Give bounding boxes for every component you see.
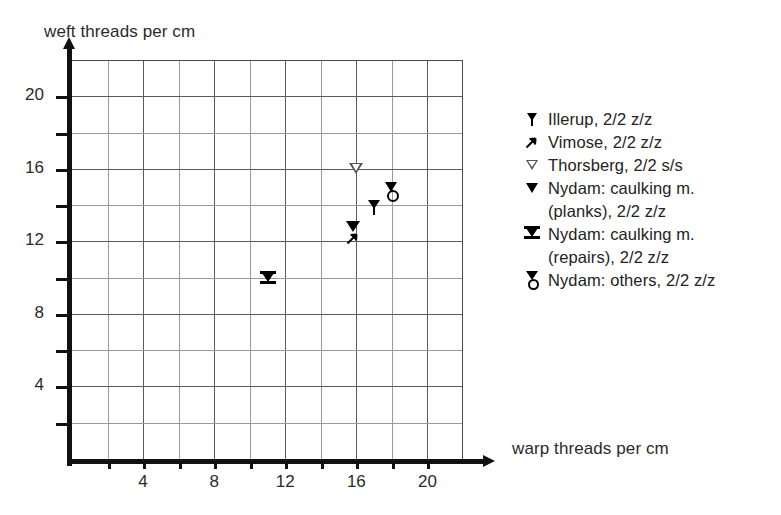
legend-item-label-line2: (repairs), 2/2 z/z (548, 248, 669, 267)
grid-line-vertical (427, 60, 428, 459)
y-tick-label: 8 (10, 303, 44, 323)
x-axis-title: warp threads per cm (512, 439, 669, 459)
legend-item[interactable]: Nydam: caulking m. (516, 177, 778, 200)
legend-item[interactable]: Illerup, 2/2 z/z (516, 108, 778, 131)
grid-line-horizontal (72, 350, 463, 351)
y-axis-tick (56, 423, 72, 426)
x-axis-tick (392, 459, 395, 469)
x-axis-tick (321, 459, 324, 469)
legend-marker-spacer (516, 246, 548, 269)
y-tick-label: 16 (10, 158, 44, 178)
legend-item[interactable]: Thorsberg, 2/2 s/s (516, 154, 778, 177)
grid-line-vertical (250, 60, 251, 459)
legend-item-continuation: (repairs), 2/2 z/z (516, 246, 778, 269)
y-axis-tick (56, 278, 72, 281)
legend-item-continuation: (planks), 2/2 z/z (516, 200, 778, 223)
grid-line-vertical (214, 60, 215, 459)
x-tick-label: 12 (265, 472, 305, 492)
plot-background (72, 60, 463, 459)
grid-line-vertical (356, 60, 357, 459)
x-axis-tick (356, 459, 359, 469)
legend-item-label: Illerup, 2/2 z/z (548, 110, 652, 129)
legend-item[interactable]: Vimose, 2/2 z/z (516, 131, 778, 154)
plot-frame-top (72, 60, 463, 61)
legend-item[interactable]: Nydam: caulking m. (516, 223, 778, 246)
x-axis-tick (108, 459, 111, 469)
legend-item[interactable]: Nydam: others, 2/2 z/z (516, 269, 778, 292)
legend-item-label: Nydam: caulking m. (548, 179, 695, 198)
legend: Illerup, 2/2 z/zVimose, 2/2 z/zThorsberg… (516, 108, 778, 292)
figure-caption (28, 501, 768, 514)
y-axis-tick (56, 96, 72, 99)
grid-line-vertical (143, 60, 144, 459)
x-axis-tick (179, 459, 182, 469)
legend-item-label: Nydam: caulking m. (548, 225, 695, 244)
legend-marker (516, 154, 548, 177)
y-axis-tick (56, 241, 72, 244)
y-axis-tick (56, 205, 72, 208)
y-axis-line (67, 47, 72, 466)
legend-marker (516, 131, 548, 154)
x-axis-tick (214, 459, 217, 469)
scatter-chart-figure: weft threads per cm warp threads per cm … (0, 0, 781, 515)
x-axis-line (67, 459, 487, 464)
plot-area (72, 60, 463, 459)
grid-line-horizontal (72, 133, 463, 134)
grid-line-vertical (179, 60, 180, 459)
y-axis-tick (56, 350, 72, 353)
legend-marker-spacer (516, 200, 548, 223)
x-axis-arrow-icon (483, 455, 495, 467)
x-tick-label: 20 (407, 472, 447, 492)
y-axis-tick (56, 314, 72, 317)
grid-line-horizontal (72, 386, 463, 387)
legend-item-label-line2: (planks), 2/2 z/z (548, 202, 666, 221)
x-tick-label: 8 (194, 472, 234, 492)
grid-line-horizontal (72, 169, 463, 170)
legend-item-label: Vimose, 2/2 z/z (548, 133, 662, 152)
grid-line-vertical (321, 60, 322, 459)
x-tick-label: 4 (123, 472, 163, 492)
y-tick-label: 12 (10, 230, 44, 250)
y-axis-tick (56, 386, 72, 389)
grid-line-horizontal (72, 205, 463, 206)
plot-frame-right (462, 60, 463, 459)
y-axis-tick (56, 133, 72, 136)
grid-line-horizontal (72, 241, 463, 242)
y-axis-tick (56, 169, 72, 172)
x-tick-label: 16 (336, 472, 376, 492)
x-axis-tick (427, 459, 430, 469)
y-axis-arrow-icon (63, 37, 75, 49)
legend-marker (516, 269, 548, 292)
grid-line-horizontal (72, 423, 463, 424)
x-axis-tick (285, 459, 288, 469)
grid-line-vertical (108, 60, 109, 459)
grid-line-horizontal (72, 96, 463, 97)
x-axis-tick (143, 459, 146, 469)
legend-marker (516, 223, 548, 246)
legend-marker (516, 177, 548, 200)
y-tick-label: 20 (10, 85, 44, 105)
legend-marker (516, 108, 548, 131)
y-tick-label: 4 (10, 375, 44, 395)
legend-item-label: Nydam: others, 2/2 z/z (548, 271, 715, 290)
grid-line-vertical (392, 60, 393, 459)
grid-line-vertical (285, 60, 286, 459)
legend-item-label: Thorsberg, 2/2 s/s (548, 156, 683, 175)
grid-line-horizontal (72, 314, 463, 315)
x-axis-tick (250, 459, 253, 469)
